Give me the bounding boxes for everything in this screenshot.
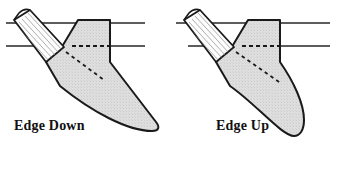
knife-orientation-figure: Edge Down Edge Up <box>0 0 340 170</box>
panel-edge-up <box>170 0 340 170</box>
edge-down-illustration <box>0 0 170 170</box>
panel-edge-down <box>0 0 170 170</box>
handle-group <box>184 9 234 62</box>
edge-up-illustration <box>170 0 340 170</box>
handle-group <box>14 9 64 62</box>
handle-shape <box>14 10 64 62</box>
handle-shape <box>184 10 234 62</box>
caption-edge-down: Edge Down <box>2 118 184 134</box>
blade-shape <box>46 20 158 131</box>
caption-edge-up: Edge Up <box>172 118 340 134</box>
